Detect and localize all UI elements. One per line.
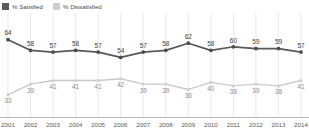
data-label: 62 <box>185 33 193 40</box>
x-tick-label: 2013 <box>272 121 286 128</box>
data-point <box>209 48 213 52</box>
legend-label-dissatisfied: % Dissatisfied <box>63 3 102 10</box>
data-point <box>6 38 10 42</box>
data-point <box>97 79 100 82</box>
x-tick-label: 2009 <box>181 121 195 128</box>
x-tick-label: 2005 <box>91 121 105 128</box>
line-chart: % Satisfied % Dissatisfied 3339414141423… <box>0 0 309 134</box>
series-dissatisfied: 3339414141423939364038393841 <box>4 77 305 104</box>
data-point <box>164 83 167 86</box>
data-label: 38 <box>230 88 238 95</box>
plot-svg: 3339414141423939364038393841645857585754… <box>0 13 309 134</box>
x-tick-label: 2006 <box>114 121 128 128</box>
data-label: 57 <box>297 42 305 49</box>
data-point <box>277 47 281 51</box>
data-label: 41 <box>95 83 103 90</box>
plot-area: 3339414141423939364038393841645857585754… <box>0 13 309 134</box>
data-label: 39 <box>27 87 35 94</box>
data-label: 58 <box>207 40 215 47</box>
data-label: 41 <box>50 83 58 90</box>
x-tick-label: 2010 <box>204 121 218 128</box>
data-label: 57 <box>50 42 58 49</box>
data-label: 33 <box>4 97 12 104</box>
x-tick-label: 2011 <box>227 121 241 128</box>
data-label: 38 <box>275 88 283 95</box>
data-point <box>51 50 55 54</box>
data-label: 40 <box>207 85 215 92</box>
data-label: 54 <box>117 47 125 54</box>
data-point <box>300 79 303 82</box>
data-label: 57 <box>95 42 103 49</box>
data-point <box>141 50 145 54</box>
data-point <box>29 48 33 52</box>
data-point <box>254 47 258 51</box>
data-point <box>187 88 190 91</box>
data-label: 57 <box>140 42 148 49</box>
data-point <box>231 45 235 49</box>
data-point <box>119 56 123 60</box>
data-point <box>96 50 100 54</box>
data-label: 58 <box>72 40 80 47</box>
data-label: 36 <box>185 92 193 99</box>
x-tick-label: 2007 <box>136 121 150 128</box>
data-label: 41 <box>297 83 305 90</box>
data-point <box>119 77 122 80</box>
data-point <box>7 93 10 96</box>
data-point <box>74 79 77 82</box>
data-point <box>299 50 303 54</box>
data-point <box>164 48 168 52</box>
x-tick-label: 2002 <box>24 121 38 128</box>
data-point <box>209 81 212 84</box>
data-point <box>277 84 280 87</box>
data-point <box>52 79 55 82</box>
legend-item-dissatisfied[interactable]: % Dissatisfied <box>53 3 102 10</box>
data-label: 58 <box>162 40 170 47</box>
x-tick-label: 2003 <box>46 121 60 128</box>
data-label: 59 <box>252 38 260 45</box>
legend-swatch-satisfied-icon <box>2 3 9 10</box>
data-label: 39 <box>162 87 170 94</box>
x-axis-tick-labels: 2001200220032004200520062007200820092010… <box>1 121 308 128</box>
x-tick-label: 2012 <box>249 121 263 128</box>
gridlines <box>8 13 301 117</box>
series-satisfied: 6458575857545758625860595957 <box>4 29 305 59</box>
data-label: 42 <box>117 81 125 88</box>
data-label: 64 <box>4 29 12 36</box>
x-tick-label: 2001 <box>1 121 15 128</box>
data-point <box>254 83 257 86</box>
data-label: 39 <box>140 87 148 94</box>
data-point <box>29 83 32 86</box>
data-point <box>142 83 145 86</box>
legend-label-satisfied: % Satisfied <box>12 3 43 10</box>
x-tick-label: 2004 <box>69 121 83 128</box>
data-label: 59 <box>275 38 283 45</box>
x-tick-label: 2008 <box>159 121 173 128</box>
data-point <box>232 84 235 87</box>
data-point <box>186 41 190 45</box>
data-label: 58 <box>27 40 35 47</box>
legend-swatch-dissatisfied-icon <box>53 3 60 10</box>
x-tick-label: 2014 <box>294 121 308 128</box>
chart-legend: % Satisfied % Dissatisfied <box>2 1 102 12</box>
data-label: 39 <box>252 87 260 94</box>
data-label: 41 <box>72 83 80 90</box>
data-label: 60 <box>230 37 238 44</box>
data-point <box>74 48 78 52</box>
legend-item-satisfied[interactable]: % Satisfied <box>2 3 43 10</box>
